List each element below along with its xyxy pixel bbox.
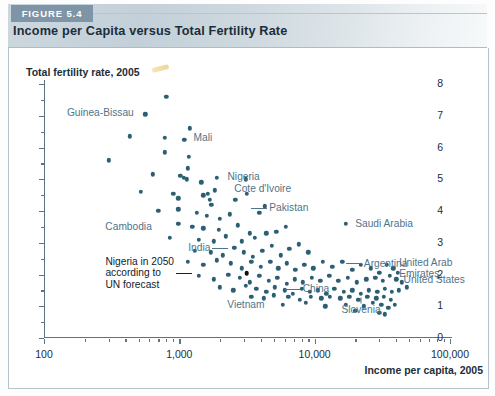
data-point <box>276 266 280 270</box>
x-axis-title: Income per capita, 2005 <box>365 364 483 376</box>
x-tick-minor <box>294 339 295 342</box>
data-point <box>151 172 155 176</box>
data-point <box>389 298 393 302</box>
data-point <box>171 191 175 195</box>
data-point <box>350 268 354 272</box>
data-point <box>306 250 310 254</box>
data-point <box>182 137 186 141</box>
x-tick-minor <box>244 339 245 342</box>
data-point <box>215 258 219 262</box>
data-point <box>397 288 401 292</box>
y-tick <box>39 116 44 117</box>
x-tick-minor <box>409 339 410 342</box>
y-tick <box>39 275 44 276</box>
data-point <box>218 217 222 221</box>
data-point <box>260 248 264 252</box>
data-point <box>274 229 278 233</box>
data-point <box>296 242 300 246</box>
data-point <box>201 263 205 267</box>
data-point <box>249 260 253 264</box>
x-tick-minor <box>420 339 421 342</box>
data-point <box>283 225 287 229</box>
label-leader-line <box>361 298 362 304</box>
data-point <box>264 231 268 235</box>
data-point <box>176 196 180 200</box>
point-label: Mali <box>194 132 213 143</box>
data-point <box>247 231 251 235</box>
x-tick-minor <box>308 339 309 342</box>
y-tick-label: 5 <box>429 173 443 184</box>
data-point <box>275 275 279 279</box>
data-point <box>176 221 180 225</box>
y-tick <box>39 243 44 244</box>
data-point <box>394 277 398 281</box>
data-point <box>226 272 230 276</box>
data-point <box>185 260 189 264</box>
y-tick-minor <box>41 195 44 196</box>
point-label: Cote d'Ivoire <box>234 183 291 194</box>
data-point <box>302 263 306 267</box>
x-tick <box>44 339 45 344</box>
data-point <box>319 296 323 300</box>
y-tick-label: 4 <box>429 205 443 216</box>
data-point <box>323 304 327 308</box>
data-point <box>199 180 203 184</box>
data-point <box>238 275 242 279</box>
data-point <box>298 298 302 302</box>
x-tick-minor <box>285 339 286 342</box>
y-tick-minor <box>41 100 44 101</box>
data-point <box>336 279 340 283</box>
data-point <box>309 275 313 279</box>
data-point <box>338 296 342 300</box>
data-point <box>212 277 216 281</box>
data-point <box>252 236 256 240</box>
x-tick-minor <box>173 339 174 342</box>
figure-number-text: FIGURE 5.4 <box>11 5 93 22</box>
x-tick-minor <box>125 339 126 342</box>
data-point <box>163 150 167 154</box>
data-point <box>176 207 180 211</box>
x-tick-minor <box>158 339 159 342</box>
point-label: Saudi Arabia <box>355 218 413 229</box>
header-rule <box>93 13 487 14</box>
data-point <box>284 261 288 265</box>
label-leader-line <box>285 289 301 290</box>
data-point <box>328 295 332 299</box>
data-point <box>381 279 385 283</box>
data-point <box>257 210 261 214</box>
data-point <box>355 280 359 284</box>
label-leader-line <box>176 273 192 274</box>
data-point <box>216 228 220 232</box>
y-tick-label: 0 <box>429 332 443 343</box>
x-tick-minor <box>149 339 150 342</box>
data-point <box>272 293 276 297</box>
data-point <box>278 253 282 257</box>
data-point <box>242 250 246 254</box>
highlighted-data-point <box>244 271 249 276</box>
x-tick-minor <box>109 339 110 342</box>
y-tick <box>39 179 44 180</box>
x-tick-minor <box>444 339 445 342</box>
data-point <box>221 253 225 257</box>
data-point <box>388 274 392 278</box>
point-label: Nigeria in 2050 according to UN forecast <box>105 256 174 290</box>
data-point <box>292 277 296 281</box>
data-point <box>273 285 277 289</box>
data-point <box>366 288 370 292</box>
data-point <box>215 175 219 179</box>
data-point <box>185 166 189 170</box>
data-point <box>168 236 172 240</box>
data-point <box>205 214 209 218</box>
y-tick-minor <box>41 290 44 291</box>
data-point <box>223 234 227 238</box>
data-point <box>164 94 168 98</box>
data-point <box>267 279 271 283</box>
data-point <box>156 209 160 213</box>
x-tick <box>179 339 180 344</box>
figure-number-badge: FIGURE 5.4 <box>11 5 93 22</box>
data-point <box>344 221 348 225</box>
y-tick-label: 3 <box>429 237 443 248</box>
x-tick-label: 100,000 <box>431 348 469 360</box>
data-point <box>269 244 273 248</box>
data-point <box>229 261 233 265</box>
